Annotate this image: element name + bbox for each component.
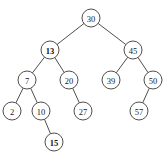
tree-node-10: 10 bbox=[32, 102, 50, 120]
tree-node-20: 20 bbox=[60, 71, 78, 89]
tree-node-50: 50 bbox=[144, 71, 162, 89]
tree-edge-30-13 bbox=[57, 24, 84, 45]
tree-node-15: 15 bbox=[45, 133, 63, 151]
node-label: 15 bbox=[50, 138, 59, 148]
tree-edge-7-2 bbox=[16, 88, 23, 103]
tree-edge-30-45 bbox=[98, 23, 126, 44]
node-label: 50 bbox=[149, 76, 158, 86]
node-label: 13 bbox=[46, 46, 55, 56]
tree-node-39: 39 bbox=[102, 71, 120, 89]
node-label: 57 bbox=[135, 107, 144, 117]
tree-edge-45-39 bbox=[116, 57, 127, 72]
node-label: 39 bbox=[107, 76, 116, 86]
tree-edge-13-7 bbox=[32, 57, 44, 73]
tree-nodes: 3013457203950210275715 bbox=[3, 9, 162, 151]
tree-node-57: 57 bbox=[130, 102, 148, 120]
tree-node-30: 30 bbox=[82, 9, 100, 27]
tree-node-7: 7 bbox=[18, 71, 36, 89]
tree-node-2: 2 bbox=[3, 102, 21, 120]
tree-edge-50-57 bbox=[143, 88, 150, 103]
binary-tree-diagram: 3013457203950210275715 bbox=[0, 0, 168, 155]
node-label: 45 bbox=[129, 46, 138, 56]
node-label: 27 bbox=[79, 107, 88, 117]
tree-edge-7-10 bbox=[31, 88, 38, 103]
node-label: 7 bbox=[25, 76, 29, 86]
tree-node-45: 45 bbox=[124, 41, 142, 59]
tree-edge-45-50 bbox=[138, 57, 148, 72]
tree-edge-10-15 bbox=[44, 119, 50, 133]
node-label: 10 bbox=[37, 107, 46, 117]
tree-edge-20-27 bbox=[73, 88, 80, 103]
tree-node-13: 13 bbox=[41, 41, 59, 59]
node-label: 20 bbox=[65, 76, 74, 86]
tree-node-27: 27 bbox=[74, 102, 92, 120]
tree-edge-13-20 bbox=[55, 58, 64, 73]
node-label: 30 bbox=[87, 14, 96, 24]
node-label: 2 bbox=[10, 107, 14, 117]
